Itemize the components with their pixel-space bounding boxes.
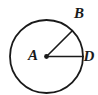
circle-diagram: A B D <box>0 0 98 95</box>
label-point-a: A <box>27 47 38 63</box>
geometry-canvas: A B D <box>0 0 98 95</box>
label-point-b: B <box>73 5 84 21</box>
radius-line-ab <box>47 31 73 57</box>
center-point-dot <box>44 54 49 59</box>
label-point-d: D <box>83 48 95 64</box>
